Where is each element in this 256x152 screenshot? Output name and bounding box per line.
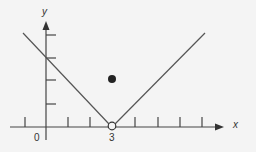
graph-figure: 0 3 x y (0, 0, 256, 152)
y-axis-label: y (41, 6, 48, 17)
x-axis-label: x (232, 119, 239, 130)
y-ticks (46, 35, 56, 104)
origin-label: 0 (34, 132, 40, 143)
graph-svg: 0 3 x y (0, 0, 256, 152)
left-branch-line (23, 33, 109, 124)
x-axis-arrow-icon (215, 124, 224, 131)
x-tick-label-3: 3 (109, 132, 115, 143)
y-axis-arrow-icon (43, 21, 50, 30)
open-circle-point (108, 122, 116, 130)
filled-dot-point (108, 75, 116, 83)
right-branch-line (115, 33, 205, 124)
